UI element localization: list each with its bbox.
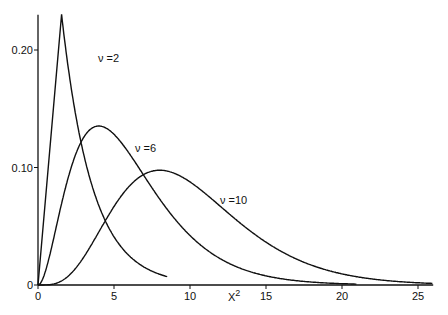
x-tick-label: 25	[412, 290, 424, 302]
x-tick-label: 10	[184, 290, 196, 302]
chi-square-chart: 051015202500.100.20 ν =2 ν =6 ν =10 X2	[0, 0, 448, 315]
label-df-10: ν =10	[220, 194, 247, 206]
curve-df-10	[38, 170, 432, 285]
y-tick-label: 0.20	[12, 44, 33, 56]
x-tick-label: 20	[336, 290, 348, 302]
x-axis-label: X2	[228, 288, 240, 303]
x-tick-label: 15	[260, 290, 272, 302]
x-tick-label: 5	[111, 290, 117, 302]
label-df-2: ν =2	[98, 52, 119, 64]
y-tick-label: 0	[27, 279, 33, 291]
y-tick-label: 0.10	[12, 162, 33, 174]
curve-df-6	[38, 126, 356, 285]
label-df-6: ν =6	[135, 142, 156, 154]
x-tick-label: 0	[35, 290, 41, 302]
